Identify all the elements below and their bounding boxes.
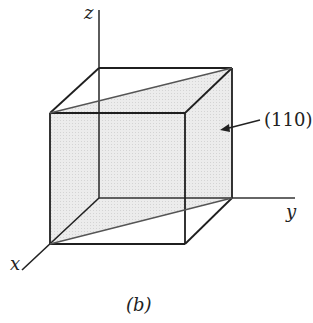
y-axis-label: y [285,201,297,222]
plane-label: (110) [264,109,312,130]
z-axis-label: z [83,2,94,23]
x-axis-label: x [10,253,20,274]
figure-caption: (b) [126,294,152,315]
cube-diagram: z y x (110) (b) [0,0,313,323]
